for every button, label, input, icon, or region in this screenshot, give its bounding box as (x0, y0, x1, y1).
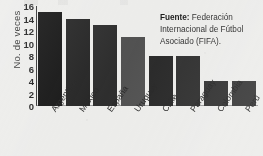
cropped-title-remnant (24, 0, 204, 5)
y-tick-label: 14 (23, 13, 34, 24)
y-tick-label: 2 (29, 88, 34, 99)
y-tick-label: 12 (23, 26, 34, 37)
source-note: Fuente: Federación Internacional de Fútb… (160, 12, 258, 48)
y-tick-label: 4 (29, 76, 34, 87)
source-note-label: Fuente: (160, 13, 190, 22)
y-tick-label: 10 (23, 38, 34, 49)
y-tick-label: 0 (29, 101, 34, 112)
y-axis-tick-labels: 1614121086420 (18, 6, 34, 106)
y-tick-label: 8 (29, 51, 34, 62)
bar-chart-figure: No. de veces 1614121086420 ArgentinaMéxi… (0, 0, 263, 156)
y-tick-label: 6 (29, 63, 34, 74)
x-axis-category-labels: ArgentinaMéxicoEspañaUruguayChileParagua… (37, 106, 263, 156)
